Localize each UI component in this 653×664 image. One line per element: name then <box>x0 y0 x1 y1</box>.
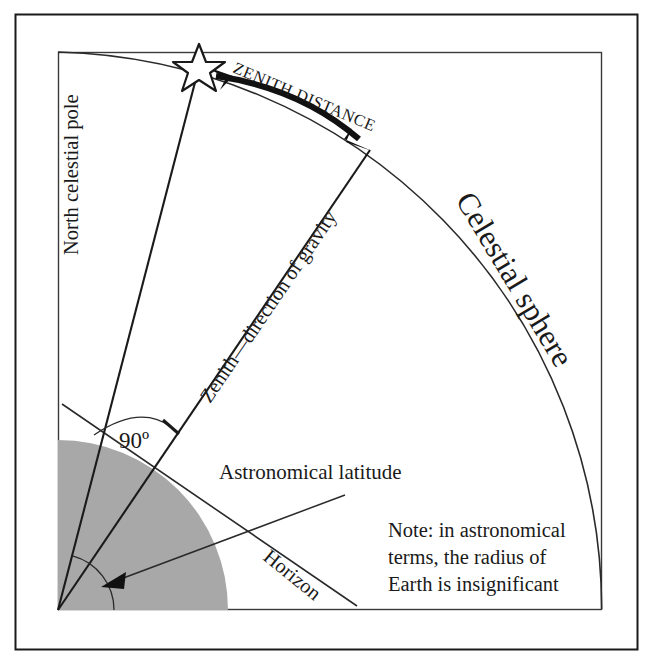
label-zenith-direction: Zenith—direction of gravity <box>195 206 341 406</box>
astronomy-diagram-svg: North celestial pole ZENITH DISTANCE Cel… <box>0 0 653 664</box>
note-line-3: Earth is insignificant <box>388 573 559 596</box>
earth-quadrant <box>58 440 228 610</box>
label-celestial-sphere: Celestial sphere <box>449 186 581 373</box>
label-zenith-distance: ZENITH DISTANCE <box>230 58 378 135</box>
note-line-1: Note: in astronomical <box>388 519 566 541</box>
label-horizon: Horizon <box>259 545 325 604</box>
note-line-2: terms, the radius of <box>388 546 546 568</box>
label-north-celestial-pole: North celestial pole <box>60 94 83 255</box>
label-astronomical-latitude: Astronomical latitude <box>219 460 402 484</box>
right-angle-tick <box>163 420 179 434</box>
star-icon <box>173 44 225 91</box>
figure-canvas: North celestial pole ZENITH DISTANCE Cel… <box>0 0 653 664</box>
label-right-angle: 90º <box>119 428 149 453</box>
